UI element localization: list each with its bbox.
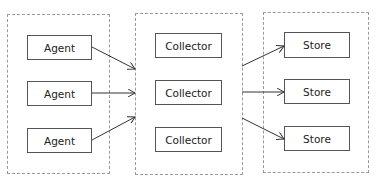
edge-collector-store1 — [242, 46, 284, 66]
edge-collector-store3 — [242, 118, 284, 139]
edges — [0, 0, 377, 184]
edge-agent1-collector — [92, 47, 135, 69]
edge-agent3-collector — [92, 117, 135, 140]
